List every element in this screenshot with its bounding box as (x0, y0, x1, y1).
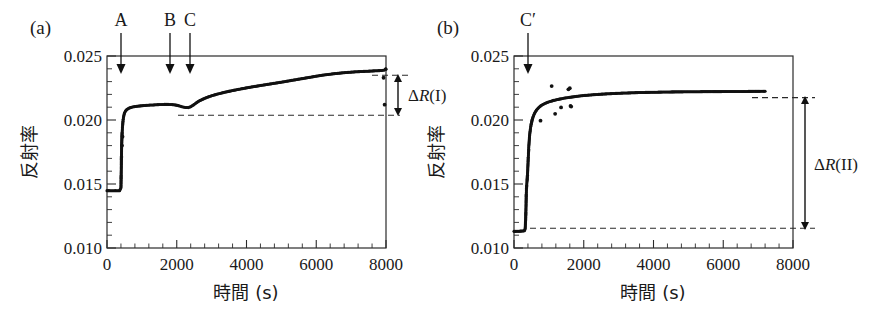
panel-a-xtick-1: 2000 (160, 255, 194, 274)
data-point (121, 135, 125, 139)
panel-b-y-axis: 0.010 0.015 0.020 0.025 (471, 47, 523, 258)
panel-a-xtick-0: 0 (103, 255, 112, 274)
panel-b-ytick-0: 0.010 (471, 239, 509, 258)
panel-a-data-points (105, 67, 387, 192)
panel-a-label: (a) (30, 17, 51, 39)
panel-b-plot-frame (514, 56, 793, 248)
data-point (120, 144, 124, 148)
panel-a-marker-B: B (164, 10, 176, 74)
panel-b-data-points (512, 84, 766, 233)
data-point (553, 112, 557, 116)
panel-a-marker-A-label: A (115, 10, 128, 30)
panel-a-xlabel: 時間 (s) (213, 282, 278, 303)
panel-b-xtick-1: 2000 (567, 255, 601, 274)
panel-a-plot-frame (107, 56, 386, 248)
panel-b-delta-annotation: ΔR(II) (801, 96, 858, 230)
panel-a-marker-A: A (115, 10, 128, 74)
panel-b-xtick-3: 6000 (706, 255, 740, 274)
panel-a-xtick-2: 4000 (230, 255, 264, 274)
data-point (383, 103, 387, 107)
panel-a-x-ticks (107, 240, 386, 248)
panel-a-ylabel: 反射率 (19, 125, 40, 179)
panel-a-xtick-3: 6000 (299, 255, 333, 274)
panel-a: (a) (19, 10, 446, 303)
panel-a-ytick-0: 0.010 (64, 239, 102, 258)
panel-a-y-ticks (107, 56, 116, 248)
panel-a-delta-annotation: ΔR(I) (394, 74, 446, 116)
panel-a-delta-label: ΔR(I) (408, 86, 446, 105)
panel-a-x-axis: 0 2000 4000 6000 8000 (103, 240, 403, 274)
data-point (550, 84, 554, 88)
panel-a-marker-C: C (184, 10, 196, 74)
data-point (568, 86, 572, 90)
panel-b-delta-arrowhead-down (801, 222, 809, 230)
panel-a-marker-C-label: C (184, 10, 196, 30)
data-point (382, 76, 386, 80)
panel-b-marker-Cprime: C′ (520, 10, 536, 74)
panel-b-marker-Cprime-arrowhead (524, 64, 533, 74)
panel-b-x-axis: 0 2000 4000 6000 8000 (510, 240, 810, 274)
panel-b-delta-label: ΔR(II) (814, 155, 858, 174)
panel-a-marker-A-arrowhead (117, 64, 126, 74)
panel-a-ytick-1: 0.015 (64, 175, 102, 194)
data-point (539, 119, 543, 123)
panel-b-ytick-1: 0.015 (471, 175, 509, 194)
panel-a-ytick-3: 0.025 (64, 47, 102, 66)
two-panel-reflectance-figure: (a) (0, 0, 883, 317)
panel-a-delta-arrowhead-down (394, 108, 402, 116)
data-point (569, 105, 573, 109)
panel-a-ytick-2: 0.020 (64, 111, 102, 130)
panel-b-ytick-2: 0.020 (471, 111, 509, 130)
panel-b-xlabel: 時間 (s) (620, 282, 685, 303)
panel-a-xtick-4: 8000 (369, 255, 403, 274)
panel-b-marker-Cprime-label: C′ (520, 10, 536, 30)
figure-container: (a) (0, 0, 883, 317)
data-point (764, 90, 767, 93)
panel-b-ytick-3: 0.025 (471, 47, 509, 66)
panel-a-marker-B-arrowhead (166, 64, 175, 74)
data-point (559, 106, 563, 110)
panel-a-marker-B-label: B (164, 10, 176, 30)
panel-b-x-ticks (514, 240, 793, 248)
panel-b-ylabel: 反射率 (426, 125, 447, 179)
panel-a-marker-C-arrowhead (186, 64, 195, 74)
panel-b-xtick-2: 4000 (637, 255, 671, 274)
panel-b-y-ticks (514, 56, 523, 248)
data-point (384, 68, 387, 71)
panel-a-y-axis: 0.010 0.015 0.020 0.025 (64, 47, 116, 258)
panel-b-xtick-0: 0 (510, 255, 519, 274)
panel-b: (b) (426, 10, 858, 303)
panel-b-label: (b) (437, 17, 459, 39)
panel-b-xtick-4: 8000 (776, 255, 810, 274)
